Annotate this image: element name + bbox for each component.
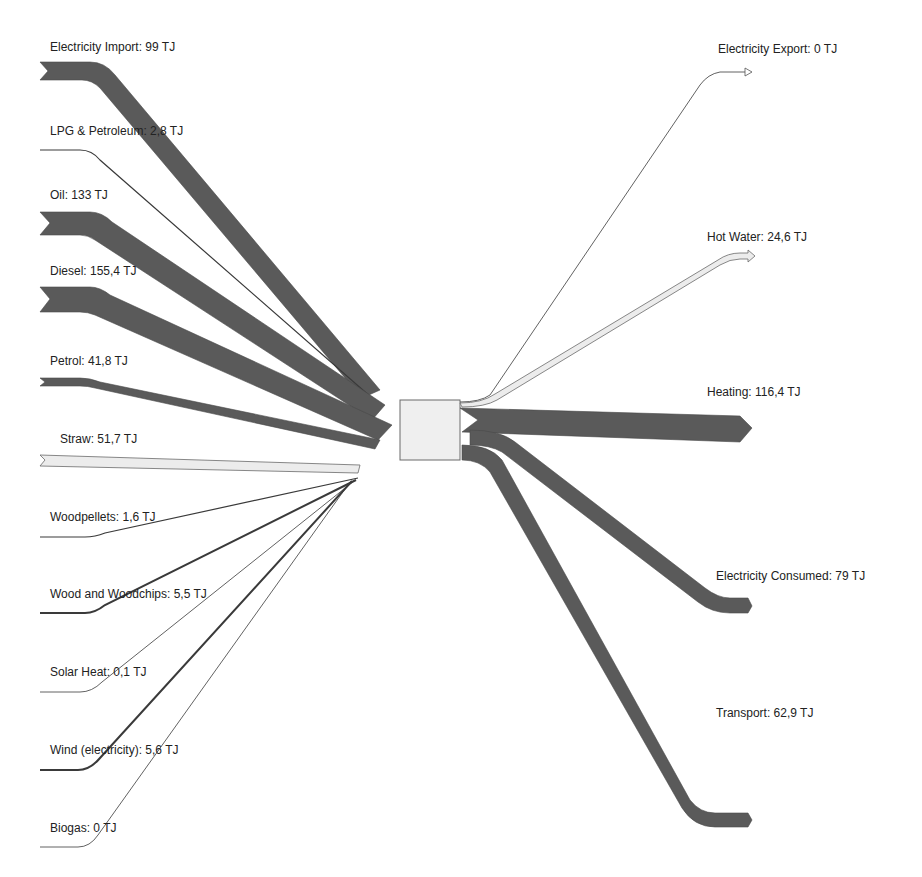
flow-straw[interactable] — [40, 455, 360, 473]
label-heating: Heating: 116,4 TJ — [707, 385, 801, 399]
label-transport: Transport: 62,9 TJ — [716, 706, 813, 720]
label-woodpellets: Woodpellets: 1,6 TJ — [50, 510, 156, 524]
flow-transport[interactable] — [462, 445, 752, 827]
arrow-electricity-export — [745, 68, 752, 76]
flow-electricity-export[interactable] — [460, 72, 745, 402]
label-wood-woodchips: Wood and Woodchips: 5,5 TJ — [50, 587, 207, 601]
flow-electricity-consumed[interactable] — [470, 430, 752, 613]
flow-oil[interactable] — [40, 212, 385, 420]
label-solar-heat: Solar Heat: 0,1 TJ — [50, 665, 147, 679]
flow-wind[interactable] — [40, 481, 352, 770]
label-biogas: Biogas: 0 TJ — [50, 821, 116, 835]
label-electricity-consumed: Electricity Consumed: 79 TJ — [716, 569, 865, 583]
label-electricity-import: Electricity Import: 99 TJ — [50, 40, 175, 54]
label-petrol: Petrol: 41,8 TJ — [50, 354, 128, 368]
label-wind: Wind (electricity): 5,6 TJ — [50, 743, 178, 757]
label-straw: Straw: 51,7 TJ — [60, 432, 137, 446]
label-oil: Oil: 133 TJ — [50, 188, 108, 202]
hub-node[interactable] — [400, 400, 460, 460]
label-hot-water: Hot Water: 24,6 TJ — [707, 230, 807, 244]
flow-hot-water[interactable] — [460, 250, 755, 407]
label-electricity-export: Electricity Export: 0 TJ — [718, 42, 837, 56]
label-lpg-petroleum: LPG & Petroleum: 2,8 TJ — [50, 124, 183, 138]
label-diesel: Diesel: 155,4 TJ — [50, 264, 137, 278]
